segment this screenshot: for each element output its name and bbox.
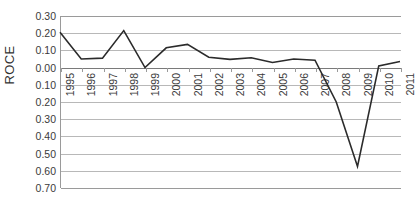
x-tick-mark	[167, 68, 168, 72]
x-tick-label: 1996	[86, 73, 97, 96]
x-tick-mark	[274, 68, 275, 72]
x-tick-mark	[316, 68, 317, 72]
gridline-0.20	[61, 33, 401, 34]
x-tick-label: 2005	[278, 73, 289, 96]
x-tick-mark	[295, 68, 296, 72]
x-tick-mark	[146, 68, 147, 72]
plot-area: 0.300.200.100.000.100.200.300.400.500.60…	[60, 16, 400, 188]
y-tick-label: 0.00	[36, 63, 56, 73]
x-tick-label: 1998	[129, 73, 140, 96]
x-tick-label: 1997	[108, 73, 119, 96]
x-tick-label: 2002	[214, 73, 225, 96]
gridline-0.40	[61, 136, 401, 137]
gridline-0.30	[61, 16, 401, 17]
x-tick-mark	[82, 68, 83, 72]
gridline-0.70	[61, 188, 401, 189]
x-tick-label: 2009	[363, 73, 374, 96]
y-tick-label: 0.10	[36, 45, 56, 55]
gridline-0.10	[61, 50, 401, 51]
x-tick-label: 1995	[65, 73, 76, 96]
x-tick-mark	[125, 68, 126, 72]
y-axis-title: ROCE	[2, 22, 20, 108]
x-tick-label: 2006	[299, 73, 310, 96]
y-tick-label: 0.40	[36, 131, 56, 141]
x-tick-label: 2008	[341, 73, 352, 96]
x-tick-mark	[401, 68, 402, 72]
x-tick-label: 2001	[193, 73, 204, 96]
x-tick-label: 2010	[384, 73, 395, 96]
x-tick-label: 1999	[150, 73, 161, 96]
gridline-0.50	[61, 154, 401, 155]
y-tick-label: 0.20	[36, 97, 56, 107]
y-tick-label: 0.70	[36, 183, 56, 193]
x-tick-mark	[210, 68, 211, 72]
x-tick-label: 2003	[235, 73, 246, 96]
x-tick-label: 2011	[405, 73, 416, 96]
y-tick-label: 0.60	[36, 166, 56, 176]
y-tick-label: 0.20	[36, 28, 56, 38]
x-tick-label: 2007	[320, 73, 331, 96]
x-tick-mark	[231, 68, 232, 72]
x-tick-mark	[380, 68, 381, 72]
gridline-0.30	[61, 119, 401, 120]
gridline-0.60	[61, 171, 401, 172]
x-tick-mark	[104, 68, 105, 72]
y-tick-label: 0.30	[36, 11, 56, 21]
y-tick-label: 0.50	[36, 149, 56, 159]
x-tick-mark	[337, 68, 338, 72]
x-tick-mark	[252, 68, 253, 72]
roce-line-chart: ROCE 0.300.200.100.000.100.200.300.400.5…	[0, 0, 419, 199]
x-tick-mark	[61, 68, 62, 72]
y-tick-label: 0.10	[36, 80, 56, 90]
x-tick-mark	[359, 68, 360, 72]
y-tick-label: 0.30	[36, 114, 56, 124]
x-tick-mark	[189, 68, 190, 72]
gridline-0.20	[61, 102, 401, 103]
x-tick-label: 2004	[256, 73, 267, 96]
x-tick-label: 2000	[171, 73, 182, 96]
